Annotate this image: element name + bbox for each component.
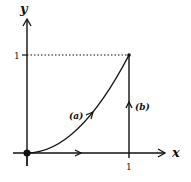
x-axis-label: x	[171, 145, 180, 160]
path-b-label: (b)	[135, 102, 150, 112]
path-a-curve	[27, 55, 129, 153]
line-integral-diagram: y x 1 1 (a) (b)	[0, 0, 191, 182]
x-axis	[13, 149, 165, 157]
y-axis	[23, 19, 31, 166]
y-axis-label: y	[19, 1, 29, 16]
end-point	[127, 53, 131, 57]
y-tick-label: 1	[14, 51, 20, 61]
x-tick-label: 1	[126, 162, 132, 172]
path-a-label: (a)	[69, 111, 83, 121]
